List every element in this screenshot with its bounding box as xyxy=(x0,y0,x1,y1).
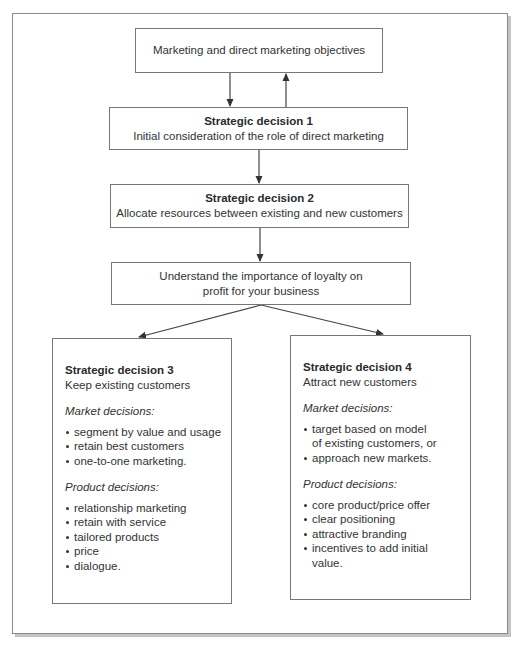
list-item: retain with service xyxy=(65,515,231,530)
list-item: dialogue. xyxy=(65,559,231,574)
list-item: one-to-one marketing. xyxy=(65,454,231,469)
list-item: tailored products xyxy=(65,530,231,545)
sd4-market-label: Market decisions: xyxy=(303,401,470,416)
list-item: relationship marketing xyxy=(65,501,231,516)
loyalty-line-1: Understand the importance of loyalty on xyxy=(112,269,410,284)
sd2-subtitle: Allocate resources between existing and … xyxy=(111,206,408,221)
sd3-market-list: segment by value and usage retain best c… xyxy=(65,425,231,469)
strategic-decision-3-box: Strategic decision 3 Keep existing custo… xyxy=(52,338,232,604)
strategic-decision-2-box: Strategic decision 2 Allocate resources … xyxy=(110,184,409,228)
list-item: clear positioning xyxy=(303,512,470,527)
sd4-market-list: target based on model of existing custom… xyxy=(303,422,470,466)
sd3-product-label: Product decisions: xyxy=(65,480,231,495)
strategic-decision-4-box: Strategic decision 4 Attract new custome… xyxy=(290,335,471,600)
list-item: core product/price offer xyxy=(303,498,470,513)
sd4-product-list: core product/price offer clear positioni… xyxy=(303,498,470,571)
list-item: attractive branding xyxy=(303,527,470,542)
sd3-market-label: Market decisions: xyxy=(65,404,231,419)
sd4-subtitle: Attract new customers xyxy=(303,375,470,390)
objectives-text: Marketing and direct marketing objective… xyxy=(136,43,382,58)
sd2-title: Strategic decision 2 xyxy=(111,191,408,206)
sd3-subtitle: Keep existing customers xyxy=(65,378,231,393)
list-item-continuation: of existing customers, or xyxy=(303,436,470,451)
sd3-product-list: relationship marketing retain with servi… xyxy=(65,501,231,574)
list-item: price xyxy=(65,544,231,559)
objectives-box: Marketing and direct marketing objective… xyxy=(135,28,383,73)
list-item-continuation: value. xyxy=(303,556,470,571)
loyalty-box: Understand the importance of loyalty on … xyxy=(111,262,411,305)
sd1-subtitle: Initial consideration of the role of dir… xyxy=(110,129,407,144)
sd4-title: Strategic decision 4 xyxy=(303,360,470,375)
list-item: retain best customers xyxy=(65,439,231,454)
loyalty-line-2: profit for your business xyxy=(112,284,410,299)
sd3-title: Strategic decision 3 xyxy=(65,363,231,378)
list-item: approach new markets. xyxy=(303,451,470,466)
sd1-title: Strategic decision 1 xyxy=(110,114,407,129)
sd4-product-label: Product decisions: xyxy=(303,477,470,492)
list-item: segment by value and usage xyxy=(65,425,231,440)
list-item: incentives to add initial xyxy=(303,541,470,556)
list-item: target based on model xyxy=(303,422,470,437)
strategic-decision-1-box: Strategic decision 1 Initial considerati… xyxy=(109,107,408,150)
